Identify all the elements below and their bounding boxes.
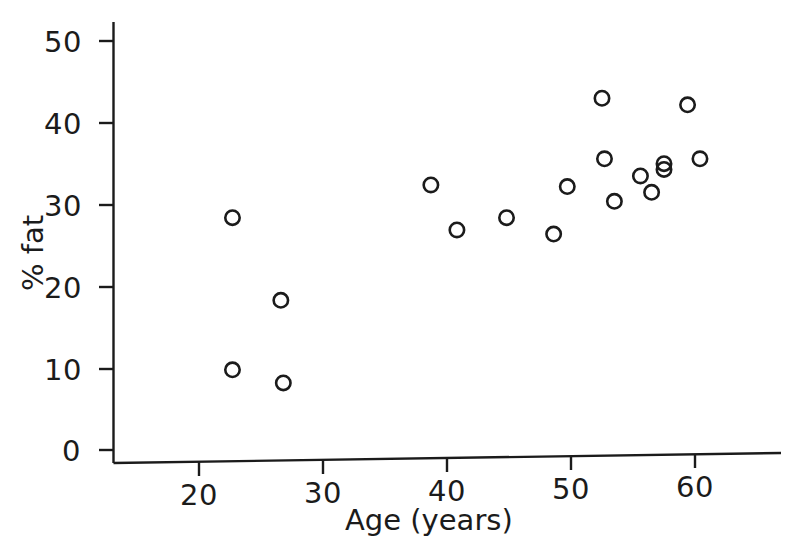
data-point [644,185,658,199]
y-tick-label-0: 0 [62,434,81,468]
x-tick-label-60: 60 [676,470,714,504]
data-point [607,194,621,208]
y-axis-title: % fat [16,209,50,297]
y-tick-label-50: 50 [44,25,82,59]
data-point [595,91,609,105]
data-point [693,152,707,166]
y-tick-label-40: 40 [44,107,82,141]
data-point [424,178,438,192]
data-point [225,363,239,377]
x-tick-label-30: 30 [304,476,342,510]
y-tick-label-10: 10 [44,353,82,387]
data-point [633,169,647,183]
axis-lines [114,22,782,463]
x-tick-label-20: 20 [180,478,218,512]
data-point [560,179,574,193]
x-tick-label-50: 50 [552,472,590,506]
data-point [680,98,694,112]
data-point [274,293,288,307]
data-point [450,223,464,237]
data-point-group [225,91,707,390]
data-point [546,227,560,241]
x-axis-title: Age (years) [345,503,513,537]
y-axis-ticks [99,41,114,450]
data-point [499,210,513,224]
data-point [597,152,611,166]
scatter-plot-figure: 50 40 30 20 10 0 20 30 40 50 60 Age (yea… [0,0,797,552]
data-point [276,376,290,390]
data-point [225,210,239,224]
